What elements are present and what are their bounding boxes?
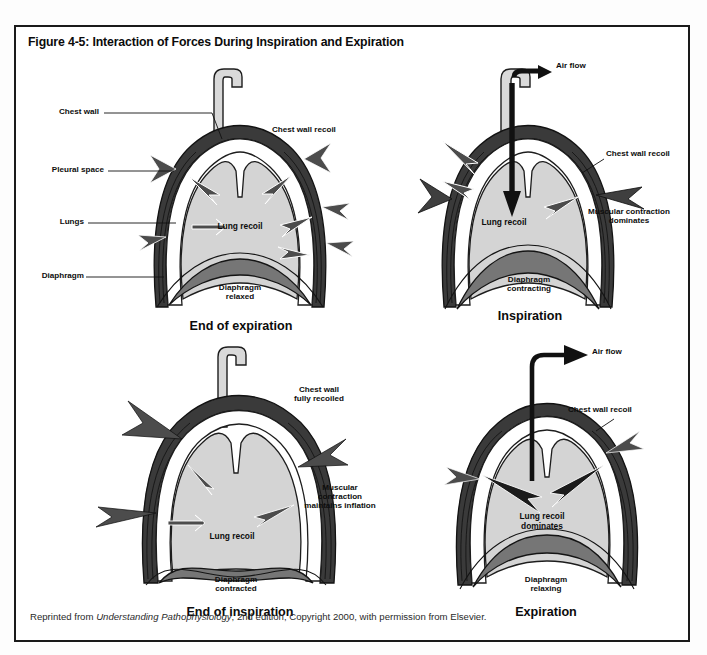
label-chest-wall: Chest wall <box>23 107 99 116</box>
air-flow-arrowhead-out <box>564 345 588 365</box>
figure-frame: Figure 4-5: Interaction of Forces During… <box>14 25 690 642</box>
label-chest-wall-recoil: Chest wall recoil <box>272 125 336 134</box>
lung-recoil-dominates-line1: Lung recoil <box>519 511 564 521</box>
panel-expiration: Lung recoil dominates Air flow Chest wal… <box>356 327 686 617</box>
thorax-diagram-3: Lung recoil <box>26 327 356 617</box>
panel-end-of-inspiration: Lung recoil Chest wall fully recoiled Mu… <box>26 327 356 617</box>
label-lungs: Lungs <box>26 217 84 226</box>
chest-wall-recoiled-line2: fully recoiled <box>294 394 344 403</box>
lungs <box>171 433 301 577</box>
label-diaphragm-relaxing: Diaphragm relaxing <box>490 575 602 593</box>
muscular-dominates-line2: dominates <box>609 216 649 225</box>
figure-caption: Reprinted from Understanding Pathophysio… <box>30 611 670 622</box>
label-diaphragm-contracting: Diaphragm contracting <box>470 275 588 293</box>
caption-source-title: Understanding Pathophysiology <box>96 611 231 622</box>
label-pleural-space: Pleural space <box>8 165 104 174</box>
muscular-maintains-line1: Muscular <box>322 483 358 492</box>
diaphragm-state-line1: Diaphragm <box>215 575 257 584</box>
diaphragm-state-line1: Diaphragm <box>525 575 567 584</box>
muscular-dominates-line1: Muscular contraction <box>588 207 670 216</box>
label-diaphragm-contracted: Diaphragm contracted <box>180 575 292 593</box>
lung-recoil-text-1: Lung recoil <box>217 221 262 231</box>
diaphragm-state-line2: contracted <box>215 584 256 593</box>
panel-inspiration: Lung recoil Air flow Chest wall recoil M… <box>356 47 686 327</box>
lung-recoil-text-2: Lung recoil <box>481 217 526 227</box>
label-chest-wall-recoil: Chest wall recoil <box>568 405 632 414</box>
thorax-diagram-4: Lung recoil dominates <box>356 327 686 617</box>
caption-prefix: Reprinted from <box>30 611 96 622</box>
panel-title-inspiration: Inspiration <box>468 309 592 323</box>
diaphragm-state-line1: Diaphragm <box>219 283 261 292</box>
chest-wall-recoiled-line1: Chest wall <box>299 385 339 394</box>
panel-end-of-expiration: Lung recoil Chest wall Pleural space Lun… <box>26 47 356 327</box>
label-air-flow: Air flow <box>556 61 586 70</box>
label-muscular-contraction-dominates: Muscular contraction dominates <box>574 207 684 225</box>
caption-suffix: , 2nd edition, Copyright 2000, with perm… <box>232 611 487 622</box>
air-flow-tube-head <box>538 65 552 79</box>
label-diaphragm: Diaphragm <box>14 271 84 280</box>
lung-recoil-text-3: Lung recoil <box>209 531 254 541</box>
diaphragm-state-line2: relaxed <box>226 292 254 301</box>
label-air-flow: Air flow <box>592 347 622 356</box>
diaphragm-state-line2: relaxing <box>530 584 561 593</box>
label-chest-wall-fully-recoiled: Chest wall fully recoiled <box>276 385 362 403</box>
diaphragm-state-line2: contracting <box>507 284 551 293</box>
diaphragm-state-line1: Diaphragm <box>508 275 550 284</box>
lung-recoil-dominates-line2: dominates <box>521 521 563 531</box>
label-diaphragm-relaxed: Diaphragm relaxed <box>184 283 296 301</box>
label-chest-wall-recoil: Chest wall recoil <box>606 149 670 158</box>
